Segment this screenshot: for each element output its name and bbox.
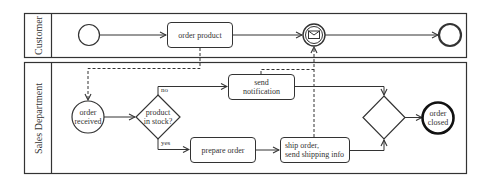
- pool-label-customer: Customer: [25, 14, 51, 57]
- customer-end-event[interactable]: [439, 24, 461, 46]
- task-send-notification[interactable]: send notification: [228, 74, 295, 100]
- envelope-icon: [309, 31, 320, 39]
- task-ship-order[interactable]: ship order, send shipping info: [280, 137, 350, 163]
- flow-notification-to-merge: [295, 87, 384, 96]
- flow-no-to-send-notification: [158, 87, 227, 96]
- stock-gateway-label: product in stock?: [138, 107, 178, 127]
- customer-start-event[interactable]: [79, 25, 100, 46]
- order-received-label: order received: [72, 107, 104, 127]
- message-intermediate-event[interactable]: [303, 24, 325, 46]
- pool-label-sales-department: Sales Department: [25, 63, 51, 173]
- merge-gateway[interactable]: [363, 96, 405, 139]
- order-closed-label: order closed: [424, 108, 452, 128]
- task-order-product[interactable]: order product: [167, 22, 233, 48]
- task-prepare-order[interactable]: prepare order: [190, 137, 256, 163]
- message-flow-order-to-received: [88, 48, 200, 100]
- edge-label-no: no: [161, 86, 168, 94]
- flow-ship-to-merge: [350, 140, 384, 151]
- edge-label-yes: yes: [161, 139, 170, 147]
